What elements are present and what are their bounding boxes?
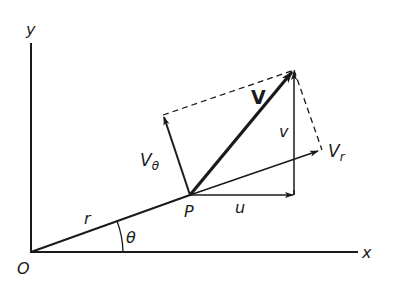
polar-velocity-diagram: y x O r θ P u v V Vr Vθ xyxy=(0,0,395,283)
radius-label: r xyxy=(84,209,92,228)
angle-label: θ xyxy=(126,228,136,247)
angle-arc-theta xyxy=(117,221,123,252)
point-label: P xyxy=(184,202,194,221)
radial-label: Vr xyxy=(328,141,346,164)
radius-line xyxy=(31,195,190,252)
tangential-label-subscript: θ xyxy=(152,159,160,173)
tangential-vector-vtheta xyxy=(164,117,190,195)
y-axis-label: y xyxy=(25,20,36,39)
v-label: v xyxy=(279,122,289,141)
velocity-vector-v xyxy=(190,72,292,195)
origin-label: O xyxy=(17,259,30,278)
dashed-line-right xyxy=(294,70,322,150)
velocity-label: V xyxy=(251,86,266,108)
tangential-label: Vθ xyxy=(140,150,160,173)
x-axis-label: x xyxy=(361,243,372,262)
radial-label-subscript: r xyxy=(340,150,346,164)
u-label: u xyxy=(235,198,245,217)
